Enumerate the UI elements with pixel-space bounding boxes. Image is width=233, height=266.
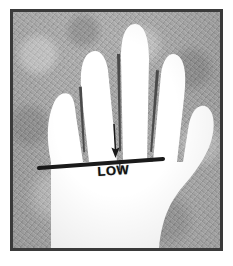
low-annotation-label: LOW [97,162,130,179]
hand-illustration [13,12,220,248]
palm-diagram-figure: LOW [0,0,233,266]
crease-middle-ring [117,54,121,152]
hand-silhouette [48,24,214,248]
illustration-frame: LOW [10,9,223,251]
